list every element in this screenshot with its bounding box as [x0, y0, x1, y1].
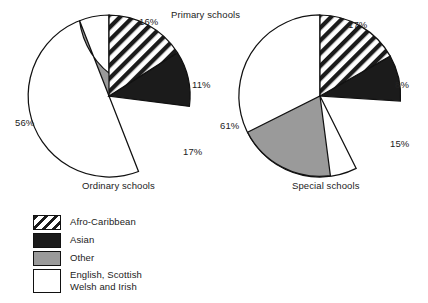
black-swatch-icon — [33, 233, 61, 248]
legend-label-asian: Asian — [70, 234, 94, 246]
ordinary-pct-english-scottish-welsh-irish: 56% — [15, 117, 34, 128]
legend-label-afro-caribbean: Afro-Caribbean — [70, 216, 136, 228]
ordinary-pct-asian: 11% — [192, 79, 211, 90]
hatch-swatch-icon — [33, 215, 61, 230]
legend-item-english-scottish-welsh-irish: English, Scottish Welsh and Irish — [33, 267, 142, 294]
special-schools-caption: Special schools — [292, 180, 360, 191]
special-pct-english-scottish-welsh-irish: 61% — [220, 120, 239, 131]
legend-item-asian: Asian — [33, 231, 142, 249]
special-pct-afro-caribbean: 17% — [348, 19, 367, 30]
special-pct-other: 15% — [390, 138, 409, 149]
legend-item-other: Other — [33, 249, 142, 267]
gray-swatch-icon — [33, 251, 61, 266]
ordinary-pct-afro-caribbean: 16% — [139, 16, 158, 27]
legend-label-other: Other — [70, 252, 94, 264]
special-pct-asian: 8% — [395, 79, 409, 90]
ordinary-schools-pie — [29, 16, 189, 176]
legend-label-english-scottish-welsh-irish: English, Scottish Welsh and Irish — [70, 269, 142, 292]
white-swatch-icon — [33, 269, 61, 293]
ordinary-schools-caption: Ordinary schools — [82, 180, 155, 191]
special-schools-pie — [240, 16, 400, 176]
ordinary-pct-other: 17% — [183, 146, 202, 157]
chart-canvas: Primary schools 16% 11% 17% 56% Ordinary… — [0, 0, 428, 303]
legend: Afro-Caribbean Asian Other English, Scot… — [33, 213, 142, 294]
legend-item-afro-caribbean: Afro-Caribbean — [33, 213, 142, 231]
